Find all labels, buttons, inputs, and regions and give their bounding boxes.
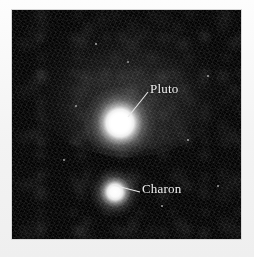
- background-star: [187, 139, 189, 141]
- astronomical-image-plate: Pluto Charon: [12, 10, 241, 239]
- background-star: [95, 43, 96, 44]
- background-star: [207, 75, 208, 76]
- background-star: [75, 105, 77, 107]
- background-star: [63, 159, 65, 161]
- background-star: [161, 205, 162, 206]
- figure-screenshot: Pluto Charon: [0, 0, 254, 257]
- background-star: [217, 185, 218, 186]
